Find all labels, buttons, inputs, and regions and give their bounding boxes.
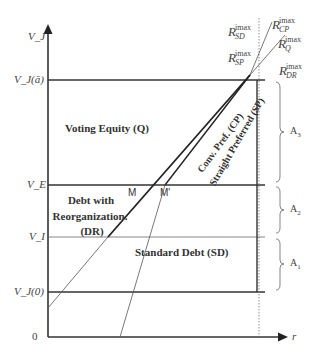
tick-vj-abar: V_J(ā) [14,73,44,85]
region-debt-reorg-2: Reorganization. [50,209,130,224]
tick-ve: V_E [27,178,46,190]
area-a3-label: A3 [290,125,301,139]
area-a2-label: A2 [290,203,301,217]
dr-line-thin [48,237,108,308]
x-axis-arrow-icon [278,333,288,342]
area-a1-label: A1 [290,257,301,271]
diagram-lines [0,0,318,355]
rmax-q-label: RimaxQ [278,35,291,53]
region-debt-reorg-1: Debt with [58,193,124,208]
rmax-sp-label: RimaxSP [228,49,244,67]
bracket-a1 [276,239,284,290]
tick-vi: V_I [29,230,45,242]
rmax-sd-label: RimaxSD [228,23,245,41]
tick-vj0: V_J(0) [14,285,44,297]
region-voting-equity: Voting Equity (Q) [65,121,149,136]
rmax-dr-label: RimaxDR [279,62,297,80]
point-m: M [128,187,136,198]
bracket-a3 [276,82,284,182]
bracket-a2 [276,187,284,233]
region-debt-reorg-3: (DR) [62,224,122,239]
region-standard-debt: Standard Debt (SD) [135,245,229,260]
origin-label: 0 [32,330,38,342]
capital-structure-diagram: V_J r 0 V_J(ā) V_E V_I V_J(0) Voting Equ… [0,0,318,355]
x-axis-label: r [292,330,296,342]
point-m-prime: M' [160,187,170,198]
cp-line-ext [250,22,272,75]
y-axis-label: V_J [28,30,45,42]
sp-line-thin [120,185,165,337]
rmax-cp-label: RimaxCP [272,16,289,34]
